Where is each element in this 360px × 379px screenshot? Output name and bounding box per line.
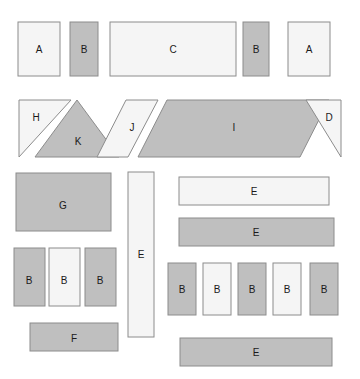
shape-low-e-top (179, 177, 329, 205)
shape-low-e-vert (128, 172, 154, 337)
shape-low-b-4 (168, 263, 196, 315)
shape-low-e-bottom (180, 338, 332, 366)
shape-mid-i (138, 100, 329, 157)
shape-low-b-2 (49, 248, 80, 306)
shapes-layer: ABCBAHKJIDGBBBFEEEBBBBBE (14, 22, 341, 366)
shape-top-b-left (70, 22, 98, 76)
shape-top-a-left (18, 22, 60, 76)
shape-low-e-mid (179, 218, 334, 246)
shape-low-g (16, 173, 111, 231)
shape-low-b-8 (310, 263, 338, 315)
shape-diagram: ABCBAHKJIDGBBBFEEEBBBBBE (0, 0, 360, 379)
shape-low-b-6 (238, 263, 266, 315)
shape-low-f (30, 323, 118, 351)
shapes-canvas: ABCBAHKJIDGBBBFEEEBBBBBE (0, 0, 360, 379)
shape-low-b-7 (273, 263, 301, 315)
shape-low-b-3 (85, 248, 116, 306)
shape-low-b-5 (203, 263, 231, 315)
shape-top-a-right (288, 22, 330, 76)
shape-low-b-1 (14, 248, 45, 306)
shape-top-b-right (243, 22, 269, 76)
shape-top-c (110, 22, 236, 76)
